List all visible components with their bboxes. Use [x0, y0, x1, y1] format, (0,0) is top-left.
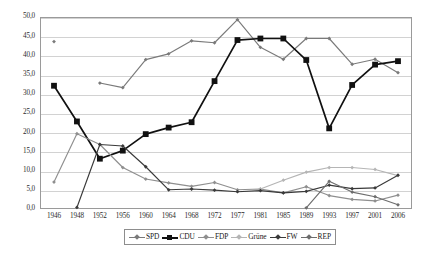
- data-point: [189, 119, 195, 125]
- data-point: [74, 119, 80, 125]
- election-results-line-chart: 0,05,010,015,020,025,030,035,040,045,050…: [0, 0, 435, 256]
- data-point: [143, 131, 149, 137]
- data-point: [235, 37, 241, 43]
- legend-label: REP: [318, 233, 331, 241]
- data-point: [396, 193, 400, 197]
- data-point: [372, 62, 378, 68]
- data-point: [327, 166, 331, 170]
- legend-marker-icon: [198, 232, 214, 242]
- data-point: [373, 168, 377, 172]
- legend-marker-icon: [231, 232, 247, 242]
- data-point: [281, 191, 285, 195]
- data-point: [350, 187, 354, 191]
- legend-item-fdp[interactable]: FDP: [198, 232, 228, 242]
- series-spd: [52, 18, 400, 90]
- data-point: [303, 57, 309, 63]
- data-point: [395, 58, 401, 64]
- legend-item-spd[interactable]: SPD: [129, 232, 159, 242]
- data-point: [281, 178, 285, 182]
- series-line: [306, 181, 398, 208]
- data-point: [190, 187, 194, 191]
- data-point: [304, 189, 308, 193]
- data-point: [373, 199, 377, 203]
- series-layer: [0, 0, 435, 256]
- legend-item-rep[interactable]: REP: [301, 232, 331, 242]
- data-point: [167, 181, 171, 185]
- data-point: [236, 190, 240, 194]
- data-point: [212, 78, 218, 84]
- data-point: [52, 180, 56, 184]
- data-point: [166, 125, 172, 131]
- data-point: [304, 185, 308, 189]
- data-point: [350, 166, 354, 170]
- data-point: [327, 194, 331, 198]
- series-grüne: [259, 166, 400, 191]
- data-point: [98, 81, 102, 85]
- series-line: [77, 144, 398, 207]
- data-point: [350, 190, 354, 194]
- data-point: [304, 170, 308, 174]
- chart-legend: SPDCDUFDPGrüneFWREP: [124, 229, 336, 245]
- data-point: [144, 177, 148, 181]
- legend-item-cdu[interactable]: CDU: [162, 232, 194, 242]
- data-point: [349, 82, 355, 88]
- data-point: [326, 125, 332, 131]
- series-cdu: [51, 36, 401, 162]
- data-point: [97, 156, 103, 162]
- data-point: [280, 36, 286, 42]
- data-point: [213, 188, 217, 192]
- series-line: [54, 39, 398, 159]
- legend-label: CDU: [179, 233, 194, 241]
- data-point: [75, 132, 79, 136]
- legend-label: FDP: [215, 233, 228, 241]
- legend-marker-icon: [301, 232, 317, 242]
- legend-marker-icon: [270, 232, 286, 242]
- data-point: [327, 183, 331, 187]
- data-point: [75, 206, 79, 210]
- data-point: [213, 181, 217, 185]
- legend-label: Grüne: [248, 233, 266, 241]
- data-point: [396, 203, 400, 207]
- data-point: [52, 40, 56, 44]
- series-rep: [304, 179, 400, 209]
- data-point: [350, 198, 354, 202]
- data-point: [51, 83, 57, 89]
- legend-item-fw[interactable]: FW: [270, 232, 298, 242]
- legend-label: FW: [287, 233, 298, 241]
- data-point: [373, 195, 377, 199]
- series-line: [100, 20, 398, 88]
- legend-label: SPD: [146, 233, 159, 241]
- legend-marker-icon: [129, 232, 145, 242]
- legend-item-grüne[interactable]: Grüne: [231, 232, 266, 242]
- legend-marker-icon: [162, 232, 178, 242]
- data-point: [258, 36, 264, 42]
